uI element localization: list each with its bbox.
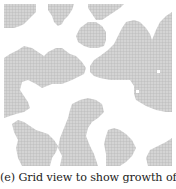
small-hole-2 — [136, 90, 139, 93]
grid-view — [0, 0, 176, 166]
figure: (e) Grid view to show growth of mu- — [0, 0, 176, 189]
small-hole-1 — [157, 70, 160, 73]
figure-caption: (e) Grid view to show growth of mu- — [0, 168, 176, 188]
